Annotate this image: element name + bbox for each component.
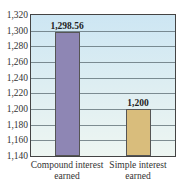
gridline [31,46,175,47]
x-category-label-line: Compound interest [27,160,107,171]
y-tick-label: 1,180 [0,120,28,130]
y-tick-label: 1,160 [0,135,28,145]
x-category-label-line: earned [27,171,107,182]
y-tick-label: 1,200 [0,104,28,114]
gridline [31,78,175,79]
bar-value-label: 1,200 [108,98,168,108]
gridline [31,109,175,110]
x-category-label: Simple interestearned [98,160,178,181]
y-tick-label: 1,260 [0,57,28,67]
y-tick-label: 1,220 [0,88,28,98]
bar-simple-interest [126,109,151,156]
y-tick-label: 1,300 [0,26,28,36]
bar-value-label: 1,298.56 [37,21,97,31]
gridline [31,125,175,126]
y-tick-label: 1,140 [0,151,28,161]
bar-chart: 1,1401,1601,1801,2001,2201,2401,2601,280… [0,0,189,187]
x-category-label: Compound interestearned [27,160,107,181]
plot-area [30,14,176,157]
x-category-label-line: Simple interest [98,160,178,171]
bar-compound-interest [55,32,80,156]
gridline [31,31,175,32]
y-tick-label: 1,280 [0,41,28,51]
y-tick-label: 1,240 [0,73,28,83]
y-tick-label: 1,320 [0,10,28,20]
gridline [31,140,175,141]
gridline [31,62,175,63]
gridline [31,93,175,94]
x-category-label-line: earned [98,171,178,182]
